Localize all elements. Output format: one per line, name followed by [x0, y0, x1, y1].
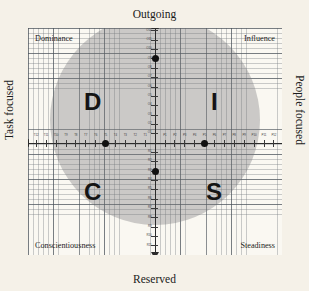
task-tick — [75, 140, 76, 147]
reserved-tick — [151, 208, 158, 209]
axis-title-people-focused: People focused — [294, 60, 306, 160]
task-tick-label: T5 — [101, 134, 110, 137]
outgoing-tick-label: O3 — [144, 113, 152, 116]
data-point-p5[interactable] — [201, 140, 208, 147]
arrow-left-icon — [28, 139, 29, 147]
task-tick — [135, 140, 136, 147]
task-tick — [46, 140, 47, 147]
task-tick — [125, 140, 126, 147]
task-tick-label: T8 — [71, 134, 80, 137]
people-tick-label: P4 — [190, 134, 199, 137]
reserved-tick-label: R3 — [144, 169, 152, 172]
plot-area: O1O2O3O4O5O6O7O8O9O10O11O12R1R2R3R4R5R6R… — [28, 28, 282, 255]
outgoing-tick-label: O10 — [144, 47, 152, 50]
task-tick — [95, 140, 96, 147]
disc-chart: Outgoing Reserved Task focused People fo… — [0, 0, 309, 291]
task-tick-label: T4 — [111, 134, 120, 137]
task-tick — [66, 140, 67, 147]
outgoing-tick-label: O2 — [144, 122, 152, 125]
reserved-tick — [151, 199, 158, 200]
outgoing-tick — [151, 30, 158, 31]
reserved-tick-label: R11 — [144, 244, 152, 247]
arrow-down-icon — [151, 252, 159, 255]
outgoing-tick — [151, 40, 158, 41]
outgoing-tick-label: O9 — [144, 57, 152, 60]
reserved-tick — [151, 236, 158, 237]
outgoing-tick — [151, 124, 158, 125]
task-tick-label: T9 — [61, 134, 70, 137]
corner-label-steadiness: Steadiness — [240, 241, 275, 250]
outgoing-tick — [151, 49, 158, 50]
reserved-tick-label: R5 — [144, 187, 152, 190]
axis-title-task-focused: Task focused — [3, 60, 15, 160]
people-tick-label: P5 — [200, 134, 209, 137]
task-tick-label: T11 — [42, 134, 51, 137]
data-point-t5[interactable] — [102, 140, 109, 147]
task-tick — [56, 140, 57, 147]
axis-title-outgoing: Outgoing — [0, 8, 309, 20]
outgoing-tick-label: O5 — [144, 94, 152, 97]
data-point-r3[interactable] — [152, 168, 159, 175]
corner-label-influence: Influence — [244, 34, 275, 43]
quadrant-letter-s: S — [206, 180, 222, 204]
outgoing-tick — [151, 77, 158, 78]
reserved-tick — [151, 217, 158, 218]
corner-label-dominance: Dominance — [35, 34, 73, 43]
people-tick-label: P9 — [240, 134, 249, 137]
people-tick — [224, 140, 225, 147]
reserved-tick — [151, 161, 158, 162]
reserved-tick-label: R9 — [144, 225, 152, 228]
reserved-tick — [151, 189, 158, 190]
arrow-up-icon — [151, 28, 159, 29]
people-tick — [234, 140, 235, 147]
task-tick-label: T2 — [131, 134, 140, 137]
people-tick — [254, 140, 255, 147]
outgoing-tick — [151, 87, 158, 88]
reserved-tick-label: R4 — [144, 178, 152, 181]
people-tick — [184, 140, 185, 147]
people-tick-label: P6 — [210, 134, 219, 137]
people-tick-label: P8 — [230, 134, 239, 137]
data-point-o9[interactable] — [152, 55, 159, 62]
reserved-tick-label: R10 — [144, 234, 152, 237]
people-tick-label: P2 — [170, 134, 179, 137]
vertical-axis — [155, 28, 157, 255]
people-tick — [165, 140, 166, 147]
outgoing-tick-label: O12 — [144, 29, 152, 32]
axis-title-reserved: Reserved — [0, 273, 309, 285]
task-tick-label: T3 — [121, 134, 130, 137]
people-tick-label: P3 — [180, 134, 189, 137]
task-tick — [85, 140, 86, 147]
outgoing-tick-label: O4 — [144, 103, 152, 106]
outgoing-tick-label: O6 — [144, 85, 152, 88]
outgoing-tick-label: O7 — [144, 75, 152, 78]
reserved-tick — [151, 152, 158, 153]
reserved-tick-label: R8 — [144, 216, 152, 219]
task-tick — [115, 140, 116, 147]
people-tick — [244, 140, 245, 147]
outgoing-tick — [151, 96, 158, 97]
outgoing-tick-label: O8 — [144, 66, 152, 69]
people-tick-label: P1 — [160, 134, 169, 137]
task-tick-label: T7 — [81, 134, 90, 137]
task-tick — [145, 140, 146, 147]
task-tick-label: T6 — [91, 134, 100, 137]
people-tick — [194, 140, 195, 147]
reserved-tick-label: R1 — [144, 150, 152, 153]
task-tick-label: T10 — [52, 134, 61, 137]
outgoing-tick-label: O11 — [144, 38, 152, 41]
reserved-tick-label: R6 — [144, 197, 152, 200]
people-tick — [273, 140, 274, 147]
people-tick — [174, 140, 175, 147]
outgoing-tick — [151, 105, 158, 106]
people-tick — [264, 140, 265, 147]
quadrant-letter-d: D — [84, 90, 101, 114]
people-tick-label: P12 — [269, 134, 278, 137]
people-tick — [214, 140, 215, 147]
reserved-tick — [151, 245, 158, 246]
outgoing-tick — [151, 68, 158, 69]
task-tick-label: T12 — [32, 134, 41, 137]
outgoing-tick — [151, 115, 158, 116]
reserved-tick-label: R7 — [144, 206, 152, 209]
reserved-tick — [151, 227, 158, 228]
